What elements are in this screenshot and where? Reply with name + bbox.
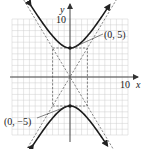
x-axis-label: x <box>135 79 141 90</box>
x-tick-label: 10 <box>120 79 130 90</box>
vertex-top-label: (0, 5) <box>104 29 126 41</box>
hyperbola-graph: y 10 10 x (0, 5) (0, −5) <box>0 0 146 149</box>
vertex-bottom <box>68 104 72 108</box>
vertex-bottom-label: (0, −5) <box>4 116 31 128</box>
vertex-top <box>68 46 72 50</box>
y-tick-label: 10 <box>56 14 66 25</box>
